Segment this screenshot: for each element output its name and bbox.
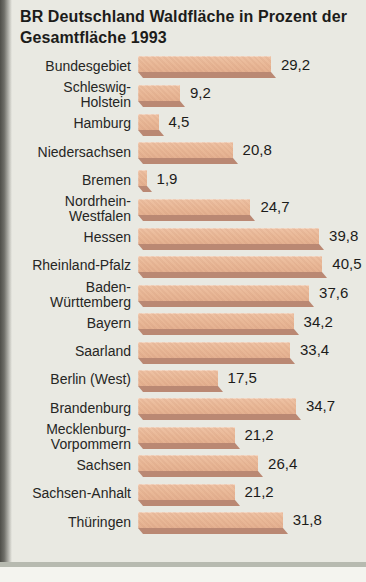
bar-area: 33,4 [138,343,364,360]
row-label: Sachsen-Anhalt [4,486,138,501]
row-label: Nordrhein- Westfalen [4,194,138,223]
row-label: Brandenburg [4,401,138,416]
bar-area: 34,7 [138,399,364,416]
chart-row: Mecklenburg- Vorpommern21,2 [4,422,364,451]
row-label: Niedersachsen [4,145,138,160]
bar-area: 21,2 [138,485,364,502]
row-label: Saarland [4,344,138,359]
bar-area: 1,9 [138,172,364,189]
bar-area: 21,2 [138,428,364,445]
chart-row: Sachsen26,4 [4,451,364,479]
bar [138,170,147,186]
bar [138,199,250,215]
chart-row: Hessen39,8 [4,224,364,252]
chart-row: Sachsen-Anhalt21,2 [4,480,364,508]
bar-chart: Bundesgebiet29,2Schleswig- Holstein9,2Ha… [4,52,364,536]
bar [138,427,235,443]
chart-row: Bayern34,2 [4,309,364,337]
chart-row: Rheinland-Pfalz40,5 [4,252,364,280]
chart-row: Brandenburg34,7 [4,394,364,422]
bar-value: 37,6 [319,284,348,301]
scanned-chart-page: BR Deutschland Waldfläche in Prozent der… [0,0,366,582]
bar [138,85,180,101]
bar [138,228,319,244]
row-label: Hamburg [4,116,138,131]
bar-area: 17,5 [138,371,364,388]
bar-area: 39,8 [138,229,364,246]
bar-value: 33,4 [300,341,329,358]
chart-row: Niedersachsen20,8 [4,138,364,166]
bar [138,370,218,386]
row-label: Bundesgebiet [4,59,138,74]
bar-value: 21,2 [245,426,274,443]
bar-value: 24,7 [260,198,289,215]
row-label: Berlin (West) [4,372,138,387]
row-label: Schleswig- Holstein [4,80,138,109]
chart-row: Bremen1,9 [4,166,364,194]
chart-row: Nordrhein- Westfalen24,7 [4,194,364,223]
bar-value: 40,5 [332,255,361,272]
bar-area: 20,8 [138,143,364,160]
bar [138,512,283,528]
bar-value: 20,8 [243,141,272,158]
bar-value: 39,8 [329,227,358,244]
row-label: Thüringen [4,515,138,530]
bar-value: 26,4 [268,455,297,472]
bar [138,484,235,500]
chart-title: BR Deutschland Waldfläche in Prozent der… [20,7,354,49]
chart-row: Baden- Württemberg37,6 [4,280,364,309]
bar [138,285,309,301]
chart-row: Hamburg4,5 [4,110,364,138]
bar [138,398,296,414]
bar [138,455,258,471]
row-label: Bayern [4,316,138,331]
bar-value: 4,5 [169,113,190,130]
row-label: Mecklenburg- Vorpommern [4,422,138,451]
bar-value: 21,2 [245,483,274,500]
bar-value: 34,2 [304,313,333,330]
row-label: Sachsen [4,458,138,473]
bar [138,313,294,329]
bar-area: 4,5 [138,115,364,132]
bar-value: 1,9 [157,170,178,187]
row-label: Bremen [4,173,138,188]
bar-area: 9,2 [138,86,364,103]
chart-row: Berlin (West)17,5 [4,366,364,394]
chart-row: Saarland33,4 [4,337,364,365]
bar-area: 31,8 [138,513,364,530]
bar-value: 17,5 [228,369,257,386]
bar-value: 31,8 [293,511,322,528]
bar-value: 34,7 [306,397,335,414]
bar [138,342,290,358]
bar-value: 9,2 [190,84,211,101]
bar [138,256,322,272]
bar-value: 29,2 [281,56,310,73]
bar-area: 37,6 [138,286,364,303]
bar-area: 34,2 [138,315,364,332]
bar [138,56,271,72]
bar-area: 26,4 [138,457,364,474]
row-label: Hessen [4,230,138,245]
row-label: Baden- Württemberg [4,280,138,309]
bar [138,142,233,158]
chart-row: Schleswig- Holstein9,2 [4,80,364,109]
bar [138,114,159,130]
bar-area: 29,2 [138,58,364,75]
row-label: Rheinland-Pfalz [4,258,138,273]
chart-row: Bundesgebiet29,2 [4,52,364,80]
bar-area: 40,5 [138,257,364,274]
bar-area: 24,7 [138,200,364,217]
panel-bottom-edge [0,562,366,567]
chart-row: Thüringen31,8 [4,508,364,536]
